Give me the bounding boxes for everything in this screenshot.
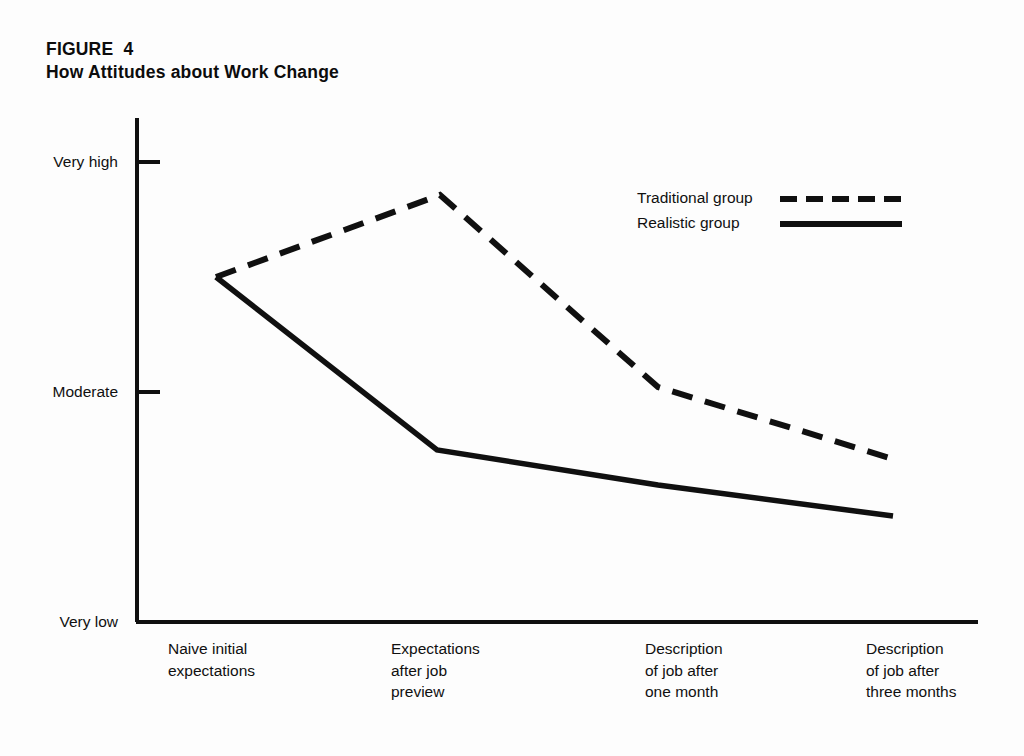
chart-legend: Traditional group Realistic group xyxy=(637,188,927,238)
x-axis-label-naive-initial-expectations: Naive initial expectations xyxy=(168,638,368,681)
legend-label-realistic-group: Realistic group xyxy=(637,213,740,233)
figure-root: FIGURE 4 How Attitudes about Work Change… xyxy=(0,0,1024,756)
x-axis-label-description-of-job-after-three-months: Description of job after three months xyxy=(866,638,1024,703)
x-axis-label-description-of-job-after-one-month: Description of job after one month xyxy=(645,638,845,703)
solid-line-swatch xyxy=(780,221,902,227)
y-axis-label-very-high: Very high xyxy=(18,153,118,171)
y-axis-label-very-low: Very low xyxy=(18,613,118,631)
legend-label-traditional-group: Traditional group xyxy=(637,188,753,208)
y-axis-label-moderate: Moderate xyxy=(18,383,118,401)
legend-item-traditional-group: Traditional group xyxy=(637,188,927,213)
x-axis-label-expectations-after-job-preview: Expectations after job preview xyxy=(391,638,591,703)
dashed-line-swatch xyxy=(780,196,902,202)
series-line-realistic-group xyxy=(216,277,893,516)
legend-item-realistic-group: Realistic group xyxy=(637,213,927,238)
